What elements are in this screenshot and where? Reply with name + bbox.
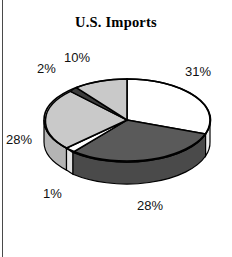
- chart-figure: U.S. Imports: [0, 0, 232, 257]
- pie-label-28-light: 28%: [6, 132, 32, 147]
- pie-label-1: 1%: [43, 186, 62, 201]
- pie-label-28-dark: 28%: [137, 198, 163, 213]
- pie-svg: [0, 0, 232, 257]
- pie-label-2: 2%: [37, 61, 56, 76]
- pie-chart-3d: [0, 0, 232, 257]
- pie-label-10: 10%: [64, 50, 90, 65]
- pie-label-31: 31%: [185, 64, 211, 79]
